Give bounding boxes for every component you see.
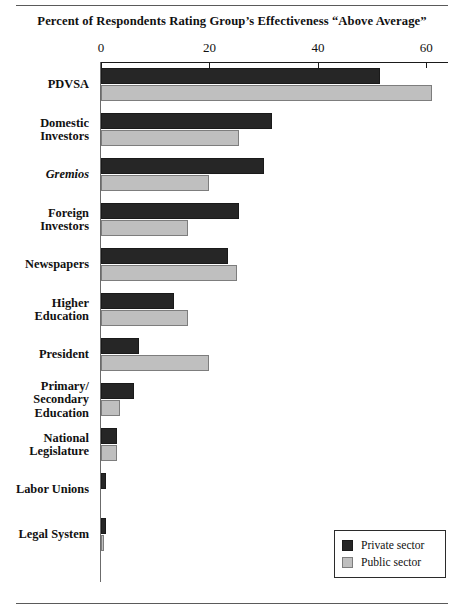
chart-figure: Percent of Respondents Rating Group’s Ef… — [0, 0, 464, 615]
bar-public — [101, 85, 432, 101]
bar-private — [101, 293, 174, 309]
bar-public — [101, 265, 237, 281]
bottom-rule — [16, 603, 448, 604]
bar-public — [101, 310, 188, 326]
bar-private — [101, 338, 139, 354]
bar-public — [101, 130, 239, 146]
x-tick-label-20: 20 — [203, 40, 216, 56]
bar-private — [101, 473, 106, 489]
bar-group: Domestic Investors — [101, 113, 448, 147]
bar-private — [101, 158, 264, 174]
category-label: Legal System — [0, 528, 89, 542]
bar-public — [101, 400, 120, 416]
category-label: Newspapers — [0, 258, 89, 272]
category-label: National Legislature — [0, 432, 89, 459]
bar-private — [101, 383, 134, 399]
bar-public — [101, 445, 117, 461]
category-label: Higher Education — [0, 297, 89, 324]
bar-group: National Legislature — [101, 428, 448, 462]
bar-private — [101, 68, 380, 84]
public-sector-swatch — [342, 557, 353, 568]
bar-group: PDVSA — [101, 68, 448, 102]
legend-item: Public sector — [342, 554, 438, 571]
bar-public — [101, 535, 104, 551]
category-label: Gremios — [0, 168, 89, 182]
top-rule — [16, 5, 448, 6]
legend-label: Public sector — [361, 556, 421, 569]
x-tick-label-60: 60 — [420, 40, 433, 56]
category-label: PDVSA — [0, 78, 89, 92]
category-label: President — [0, 348, 89, 362]
bar-group: Foreign Investors — [101, 203, 448, 237]
bar-group: Gremios — [101, 158, 448, 192]
bar-public — [101, 355, 209, 371]
bar-private — [101, 428, 117, 444]
bar-group: Higher Education — [101, 293, 448, 327]
bar-group: Primary/ Secondary Education — [101, 383, 448, 417]
private-sector-swatch — [342, 540, 353, 551]
bar-public — [101, 175, 209, 191]
chart-legend: Private sectorPublic sector — [334, 530, 446, 578]
x-tick-label-0: 0 — [98, 40, 105, 56]
x-tick-label-40: 40 — [311, 40, 324, 56]
bar-private — [101, 248, 228, 264]
bar-group: Labor Unions — [101, 473, 448, 507]
bar-public — [101, 220, 188, 236]
legend-label: Private sector — [361, 539, 424, 552]
plot-area: 0204060 PDVSADomestic InvestorsGremiosFo… — [101, 62, 448, 582]
x-axis-line — [101, 62, 448, 63]
category-label: Foreign Investors — [0, 207, 89, 234]
bar-private — [101, 203, 239, 219]
bar-group: President — [101, 338, 448, 372]
category-label: Domestic Investors — [0, 117, 89, 144]
chart-title: Percent of Respondents Rating Group’s Ef… — [0, 14, 464, 29]
category-label: Labor Unions — [0, 483, 89, 497]
bar-group: Newspapers — [101, 248, 448, 282]
category-label: Primary/ Secondary Education — [0, 380, 89, 421]
legend-item: Private sector — [342, 537, 438, 554]
bar-private — [101, 518, 106, 534]
bar-private — [101, 113, 272, 129]
